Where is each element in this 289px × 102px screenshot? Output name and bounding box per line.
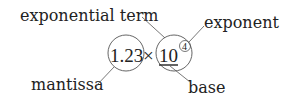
leader-exponent (189, 26, 204, 42)
scientific-notation-diagram: exponential term exponent mantissa base … (0, 0, 289, 102)
times-sign: × (143, 45, 154, 66)
label-exponent: exponent (204, 13, 279, 32)
mantissa-value: 1.23 (110, 45, 143, 66)
leader-base (170, 66, 190, 82)
label-base: base (188, 78, 225, 97)
label-exponential-term: exponential term (20, 6, 158, 25)
label-mantissa: mantissa (31, 75, 104, 94)
exponent-value: 4 (182, 41, 187, 52)
base-value: 10 (159, 45, 178, 66)
